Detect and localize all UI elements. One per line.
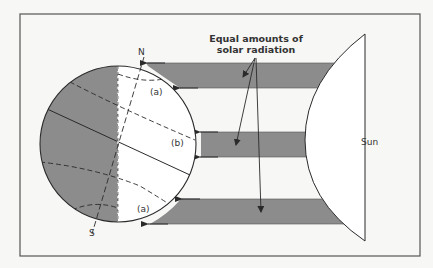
label-zone-a-bottom: (a) — [137, 204, 150, 214]
night-side — [38, 60, 118, 230]
label-north: N — [138, 47, 145, 57]
solar-radiation-diagram: N S (a) (b) (a) Sun Equal amounts of sol… — [0, 0, 433, 268]
callout-line-1: Equal amounts of — [209, 33, 303, 44]
label-sun: Sun — [361, 137, 378, 147]
label-zone-b: (b) — [171, 138, 184, 148]
label-zone-a-top: (a) — [150, 87, 163, 97]
label-south: S — [89, 228, 95, 238]
callout-line-2: solar radiation — [217, 44, 296, 55]
